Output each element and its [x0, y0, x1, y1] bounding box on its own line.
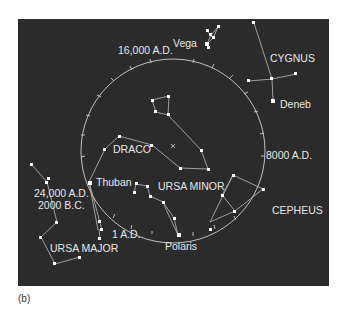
- label-cygnus: CYGNUS: [270, 53, 315, 64]
- label-2000-bc: 2000 B.C.: [38, 200, 85, 211]
- label-1-ad: 1 A.D.: [112, 229, 141, 240]
- label-draco: DRACO: [113, 144, 151, 155]
- label-polaris: Polaris: [165, 241, 197, 252]
- cepheus-lines: [222, 175, 263, 211]
- label-deneb: Deneb: [280, 99, 311, 110]
- label-ursa-major: URSA MAJOR: [50, 243, 118, 254]
- label-ursa-minor: URSA MINOR: [158, 181, 225, 192]
- label-8000-ad: 8000 A.D.: [266, 150, 312, 161]
- draco-body-lines: [89, 115, 208, 230]
- figure-caption: (b): [18, 293, 30, 304]
- precession-circle: [81, 59, 265, 243]
- stars: [30, 21, 297, 265]
- label-16000-ad: 16,000 A.D.: [118, 45, 173, 56]
- label-cepheus: CEPHEUS: [272, 205, 323, 216]
- label-24000-ad: 24,000 A.D.: [34, 188, 89, 199]
- label-thuban: Thuban: [96, 177, 132, 188]
- label-vega: Vega: [173, 38, 197, 49]
- pole-center-marker: [171, 144, 175, 148]
